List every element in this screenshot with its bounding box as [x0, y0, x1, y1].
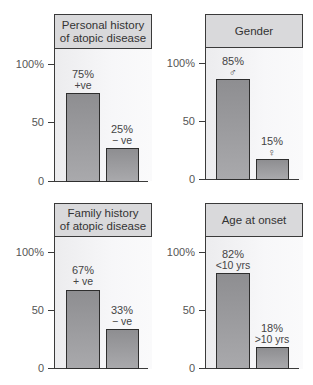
bar-under-10	[216, 273, 250, 369]
y-tick-label-100: 100%	[155, 58, 195, 69]
bar-label-over-10: 18% >10 yrs	[247, 323, 297, 345]
y-tick-100	[48, 252, 55, 253]
bar-category: − ve	[97, 316, 147, 327]
y-axis	[54, 236, 55, 369]
bar-category: <10 yrs	[208, 260, 258, 271]
chart-panel-gender: Gender 100% 50 0 85% ♂ 15% ♀	[205, 14, 303, 180]
panel-title-line-1: Family history	[60, 207, 146, 220]
panel-title-line-1: Personal history	[60, 19, 146, 32]
y-tick-label-50: 50	[4, 117, 44, 128]
bar-female	[256, 159, 289, 180]
female-symbol-icon: ♀	[247, 147, 297, 158]
y-tick-label-0: 0	[155, 363, 195, 374]
bar-category: >10 yrs	[247, 334, 297, 345]
y-tick-50	[48, 122, 55, 123]
y-tick-50	[199, 121, 206, 122]
y-tick-100	[199, 252, 206, 253]
panel-title-line-2: of atopic disease	[60, 220, 146, 233]
panel-title-box: Gender	[205, 14, 303, 48]
chart-panel-personal-history: Personal history of atopic disease 100% …	[54, 14, 152, 182]
y-tick-50	[199, 310, 206, 311]
panel-title-box: Personal history of atopic disease	[54, 14, 152, 49]
y-tick-label-50: 50	[4, 305, 44, 316]
y-axis	[205, 236, 206, 369]
y-tick-label-100: 100%	[4, 247, 44, 258]
bar-category: +ve	[58, 80, 108, 91]
panel-title-box: Age at onset	[205, 203, 303, 237]
bar-negative	[106, 148, 139, 182]
bar-male	[216, 79, 250, 180]
bar-label-positive: 67% + ve	[58, 265, 108, 287]
bar-label-male: 85% ♂	[208, 56, 258, 78]
bar-label-negative: 25% − ve	[97, 124, 147, 146]
bar-label-positive: 75% +ve	[58, 69, 108, 91]
y-tick-label-50: 50	[155, 305, 195, 316]
panel-title-line-1: Age at onset	[222, 214, 287, 227]
bar-category: + ve	[58, 276, 108, 287]
bar-label-negative: 33% − ve	[97, 305, 147, 327]
male-symbol-icon: ♂	[208, 67, 258, 78]
y-tick-label-0: 0	[4, 176, 44, 187]
y-tick-label-0: 0	[4, 363, 44, 374]
bar-negative	[106, 329, 139, 369]
panel-title-line-1: Gender	[235, 25, 273, 38]
y-tick-label-50: 50	[155, 116, 195, 127]
bar-over-10	[256, 347, 289, 369]
panel-title-box: Family history of atopic disease	[54, 203, 152, 237]
y-tick-label-0: 0	[155, 174, 195, 185]
y-tick-label-100: 100%	[4, 59, 44, 70]
chart-panel-family-history: Family history of atopic disease 100% 50…	[54, 203, 152, 369]
bar-label-under-10: 82% <10 yrs	[208, 249, 258, 271]
panel-title-line-2: of atopic disease	[60, 32, 146, 45]
bar-category: − ve	[97, 135, 147, 146]
chart-panel-age-at-onset: Age at onset 100% 50 0 82% <10 yrs 18% >…	[205, 203, 303, 369]
bar-positive	[66, 93, 100, 182]
bar-positive	[66, 290, 100, 369]
y-tick-50	[48, 310, 55, 311]
y-tick-100	[199, 63, 206, 64]
y-axis	[205, 47, 206, 180]
bar-label-female: 15% ♀	[247, 136, 297, 158]
y-tick-100	[48, 64, 55, 65]
y-axis	[54, 48, 55, 182]
y-tick-label-100: 100%	[155, 247, 195, 258]
